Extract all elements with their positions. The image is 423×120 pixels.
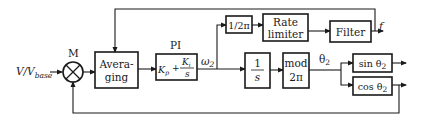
svg-text:s: s xyxy=(185,69,190,79)
svg-text:Avera-: Avera- xyxy=(98,58,134,70)
svg-text:s: s xyxy=(255,71,261,83)
svg-text:mod: mod xyxy=(285,57,308,69)
multiplier-icon xyxy=(63,62,83,82)
sin-block: sin θ2 xyxy=(353,54,392,72)
theta-label: θ2 xyxy=(319,53,330,67)
rate-limiter-block: Rate limiter xyxy=(263,14,308,41)
cos-block: cos θ2 xyxy=(353,77,392,95)
pll-block-diagram: V/Vbase M Avera- ging PI Kp + Ki s ω2 1/… xyxy=(0,0,423,120)
svg-text:1: 1 xyxy=(254,57,261,69)
svg-text:+: + xyxy=(172,63,180,73)
pi-controller-block: Kp + Ki s xyxy=(156,54,197,80)
input-label: V/Vbase xyxy=(16,65,53,80)
theta-to-sin xyxy=(341,63,353,70)
theta-to-cos xyxy=(341,70,353,85)
omega-to-inv2pi xyxy=(217,25,226,69)
svg-text:2π: 2π xyxy=(289,71,303,83)
pi-title: PI xyxy=(170,39,181,51)
multiplier-label: M xyxy=(68,47,79,59)
omega-label: ω2 xyxy=(201,55,215,69)
filter-block: Filter xyxy=(330,21,371,42)
svg-text:1/2π: 1/2π xyxy=(228,20,250,31)
svg-text:Filter: Filter xyxy=(336,26,366,38)
averaging-block: Avera- ging xyxy=(95,52,138,88)
inv-2pi-block: 1/2π xyxy=(226,16,252,33)
svg-text:Rate: Rate xyxy=(273,16,298,28)
frequency-label: f xyxy=(378,20,385,32)
svg-text:ging: ging xyxy=(105,71,129,83)
mod-2pi-block: mod 2π xyxy=(283,53,309,88)
svg-text:limiter: limiter xyxy=(268,28,304,40)
integrator-block: 1 s xyxy=(245,53,270,88)
